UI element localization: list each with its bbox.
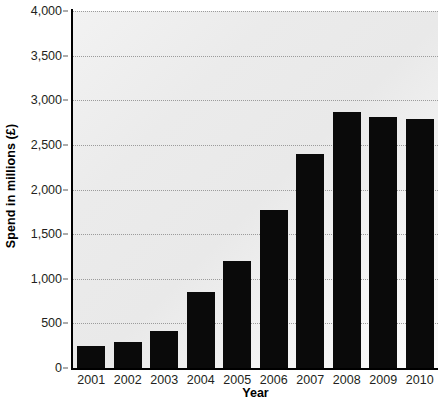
- y-axis-tick-mark: [63, 11, 68, 12]
- y-axis-tick-label: 4,000: [31, 4, 62, 18]
- y-axis-title-label: Spend in millions (£): [4, 124, 18, 248]
- x-axis-tick-label: 2008: [333, 373, 361, 387]
- y-axis-tick-label: 1,500: [31, 227, 62, 241]
- x-axis-tick-label: 2005: [223, 373, 251, 387]
- x-axis-tick-label: 2001: [77, 373, 105, 387]
- x-axis-tick-label: 2006: [260, 373, 288, 387]
- bar: [333, 112, 361, 368]
- y-axis-tick-mark: [63, 323, 68, 324]
- y-axis-tick-mark: [63, 278, 68, 279]
- y-axis-tick-mark: [63, 55, 68, 56]
- x-axis-line: [71, 368, 438, 370]
- bar: [260, 210, 288, 368]
- x-axis-title: Year: [73, 386, 438, 400]
- y-axis-tick-label: 1,000: [31, 272, 62, 286]
- y-axis-tick-label: 2,000: [31, 183, 62, 197]
- y-axis-tick-label: 3,000: [31, 93, 62, 107]
- plot-area: [73, 11, 438, 368]
- bars-group: [73, 11, 438, 368]
- bar: [296, 154, 324, 368]
- y-axis-tick-mark: [63, 144, 68, 145]
- x-axis-tick-label: 2007: [296, 373, 324, 387]
- y-axis-line: [71, 9, 73, 370]
- y-axis-tick-mark: [63, 368, 68, 369]
- bar: [150, 331, 178, 368]
- y-axis-tick-mark: [63, 234, 68, 235]
- bar: [406, 119, 434, 368]
- x-axis-tick-label: 2010: [406, 373, 434, 387]
- y-axis-tick-mark: [63, 189, 68, 190]
- bar: [369, 117, 397, 368]
- bar: [223, 261, 251, 368]
- y-axis-title: Spend in millions (£): [0, 0, 22, 372]
- y-axis-tick-label: 500: [41, 316, 62, 330]
- y-axis-tick-label: 2,500: [31, 138, 62, 152]
- y-axis-tick-mark: [63, 100, 68, 101]
- x-axis-tick-label: 2003: [150, 373, 178, 387]
- y-axis-tick-label: 3,500: [31, 49, 62, 63]
- x-axis-tick-label: 2009: [369, 373, 397, 387]
- x-axis-tick-label: 2004: [187, 373, 215, 387]
- bar: [187, 292, 215, 368]
- bar: [114, 342, 142, 368]
- bar: [77, 346, 105, 368]
- bar-chart: Spend in millions (£) 05001,0001,5002,00…: [0, 0, 438, 400]
- y-axis-tick-label: 0: [55, 361, 62, 375]
- x-axis-tick-label: 2002: [114, 373, 142, 387]
- y-axis-tick-labels: 05001,0001,5002,0002,5003,0003,5004,000: [20, 0, 68, 372]
